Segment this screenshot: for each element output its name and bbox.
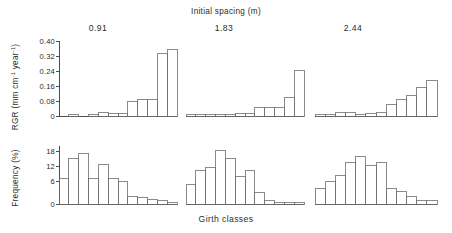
histogram-bar — [407, 196, 417, 204]
rgr-axis-label: RGR (mm cm-1 year-1) — [10, 44, 20, 131]
histogram-bar — [255, 193, 265, 204]
histogram-bar — [294, 202, 304, 204]
histogram-bar — [275, 202, 285, 204]
freq-ytick-0: 0 — [51, 200, 55, 209]
panel-rgr-1_83 — [186, 70, 304, 116]
histogram-bar — [128, 101, 138, 116]
rgr-frequency-girth-class-figure: Initial spacing (m) 0.91 1.83 2.44 RGR (… — [0, 0, 452, 233]
histogram-bar — [427, 81, 437, 116]
rgr-axis-label-part3: ) — [11, 44, 20, 47]
histogram-bar — [235, 114, 245, 116]
histogram-bar — [417, 200, 427, 204]
histogram-bar — [245, 170, 255, 204]
histogram-bar — [356, 114, 366, 116]
figure-title: Initial spacing (m) — [191, 7, 261, 16]
panel-rgr-0_91 — [59, 49, 177, 116]
panel-rgr-2_44 — [315, 81, 437, 116]
histogram-bar — [376, 162, 386, 204]
frequency-panel-row — [59, 151, 437, 204]
histogram-bar — [225, 159, 235, 204]
histogram-bar — [325, 182, 335, 204]
rgr-ytick-000: 0 — [51, 112, 55, 121]
frequency-axis-label: Frequency (%) — [11, 149, 20, 207]
rgr-ytick-040: 0.40 — [39, 37, 55, 46]
histogram-bar — [59, 178, 69, 204]
histogram-bar — [69, 158, 79, 204]
histogram-bar — [255, 108, 265, 116]
frequency-y-axis-ticks — [56, 151, 60, 204]
histogram-bar — [396, 100, 406, 116]
rgr-ytick-008: 0.08 — [39, 97, 55, 106]
histogram-bar — [216, 151, 226, 204]
histogram-bar — [315, 189, 325, 204]
histogram-bar — [157, 53, 167, 116]
rgr-panel-row — [59, 49, 437, 116]
rgr-y-axis-ticks — [56, 41, 60, 116]
histogram-bar — [417, 88, 427, 117]
histogram-bar — [206, 114, 216, 116]
histogram-bar — [284, 97, 294, 116]
histogram-bar — [366, 165, 376, 204]
column-label-spacing-1: 0.91 — [89, 23, 107, 33]
histogram-bar — [225, 114, 235, 116]
histogram-bar — [386, 105, 396, 116]
histogram-bar — [216, 114, 226, 116]
histogram-bar — [108, 178, 118, 204]
histogram-bar — [335, 176, 345, 204]
freq-ytick-18: 18 — [46, 147, 55, 156]
histogram-bar — [235, 176, 245, 204]
histogram-bar — [186, 184, 196, 204]
frequency-axis-label-text: Frequency (%) — [11, 149, 20, 207]
panel-frequency-2_44 — [315, 156, 437, 204]
histogram-bar — [138, 198, 148, 204]
histogram-bar — [138, 99, 148, 116]
histogram-bar — [346, 162, 356, 204]
histogram-bar — [79, 153, 89, 204]
histogram-bar — [89, 178, 99, 204]
histogram-bar — [386, 188, 396, 204]
column-label-spacing-2: 1.83 — [215, 23, 233, 33]
histogram-bar — [148, 200, 158, 204]
histogram-bar — [196, 171, 206, 204]
histogram-bar — [356, 156, 366, 204]
rgr-axis-label-part1: RGR (mm cm — [11, 77, 20, 130]
histogram-bar — [167, 49, 177, 116]
histogram-bar — [128, 197, 138, 204]
rgr-ytick-024: 0.24 — [39, 67, 55, 76]
histogram-bar — [275, 108, 285, 116]
panel-frequency-1_83 — [186, 151, 304, 204]
histogram-bar — [89, 114, 99, 116]
histogram-bar — [284, 202, 294, 204]
column-label-spacing-3: 2.44 — [344, 23, 362, 33]
histogram-bar — [98, 165, 108, 204]
histogram-bar — [206, 168, 216, 204]
rgr-ytick-032: 0.32 — [39, 52, 55, 61]
histogram-bar — [148, 99, 158, 116]
x-axis-label: Girth classes — [199, 214, 254, 224]
histogram-bar — [396, 192, 406, 204]
histogram-bar — [157, 201, 167, 204]
histogram-bar — [376, 113, 386, 116]
histogram-bar — [427, 200, 437, 204]
freq-ytick-6: 6 — [51, 177, 55, 186]
rgr-axis-label-part2: year — [11, 52, 20, 72]
histogram-bar — [346, 113, 356, 116]
histogram-bar — [98, 113, 108, 116]
panel-frequency-0_91 — [59, 153, 177, 204]
svg-text:RGR (mm cm-1 year-1): RGR (mm cm-1 year-1) — [10, 44, 20, 131]
histogram-bar — [294, 70, 304, 116]
rgr-ytick-016: 0.16 — [39, 82, 55, 91]
histogram-bar — [315, 114, 325, 116]
histogram-bar — [196, 114, 206, 116]
histogram-bar — [265, 200, 275, 204]
freq-ytick-12: 12 — [46, 162, 55, 171]
histogram-bar — [407, 95, 417, 116]
histogram-bar — [118, 181, 128, 204]
histogram-bar — [186, 114, 196, 116]
histogram-bar — [167, 203, 177, 204]
histogram-bar — [325, 114, 335, 116]
histogram-bar — [69, 115, 79, 117]
histogram-bar — [335, 113, 345, 116]
histogram-bar — [265, 108, 275, 116]
